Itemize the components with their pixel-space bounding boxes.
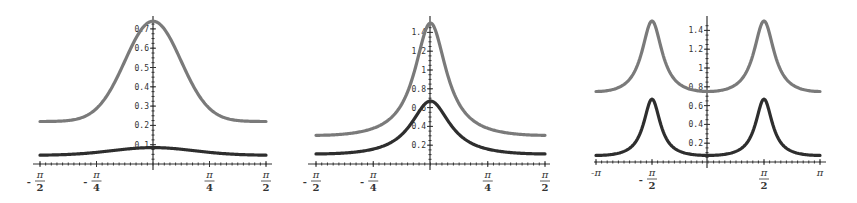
svg-text:-: -	[360, 176, 364, 187]
x-tick-fraction-label: π4-	[360, 169, 378, 193]
svg-text:2: 2	[313, 182, 320, 193]
svg-text:2: 2	[649, 180, 656, 191]
svg-text:-: -	[83, 176, 87, 187]
y-tick-label: 1.4	[689, 26, 704, 35]
svg-text:π: π	[262, 169, 270, 180]
svg-text:4: 4	[484, 182, 491, 193]
svg-text:π: π	[36, 169, 44, 180]
x-tick-fraction-label: π2	[540, 169, 550, 193]
svg-text:π: π	[92, 169, 100, 180]
svg-text:-: -	[303, 176, 307, 187]
svg-text:2: 2	[37, 182, 44, 193]
x-tick-fraction-label: π2-	[303, 169, 321, 193]
y-tick-label: 0.8	[412, 85, 427, 94]
x-tick-fraction-label: π2	[759, 167, 769, 191]
svg-text:π: π	[369, 169, 377, 180]
svg-text:π: π	[541, 169, 549, 180]
svg-text:-: -	[639, 174, 643, 185]
y-tick-label: 1.2	[689, 45, 704, 54]
x-tick-fraction-label: π2-	[27, 169, 45, 193]
y-tick-label: 0.6	[135, 44, 150, 53]
svg-text:-: -	[27, 176, 31, 187]
svg-text:π: π	[205, 169, 213, 180]
x-tick-label: -π	[591, 167, 601, 178]
y-tick-label: 1	[421, 66, 426, 75]
svg-text:π: π	[483, 169, 491, 180]
x-tick-fraction-label: π4	[205, 169, 215, 193]
x-tick-fraction-label: π2-	[639, 167, 657, 191]
x-tick-label: π	[816, 167, 824, 178]
chart-canvas: 0.10.20.30.40.50.60.7π2-π4-π4π2 0.20.40.…	[0, 0, 857, 203]
y-tick-label: 0.3	[135, 102, 150, 111]
y-tick-label: 0.5	[135, 64, 150, 73]
chart-2: 0.20.40.60.811.21.4π2-π4-π4π2	[303, 16, 550, 193]
svg-text:π: π	[648, 167, 656, 178]
svg-text:2: 2	[263, 182, 270, 193]
y-tick-label: 0.2	[412, 141, 427, 150]
x-tick-fraction-label: π4	[483, 169, 493, 193]
svg-text:2: 2	[542, 182, 549, 193]
x-tick-fraction-label: π4-	[83, 169, 101, 193]
x-tick-fraction-label: π2	[261, 169, 271, 193]
svg-text:2: 2	[761, 180, 768, 191]
svg-text:π: π	[312, 169, 320, 180]
series-light-line	[596, 21, 820, 92]
svg-text:4: 4	[206, 182, 213, 193]
chart-1: 0.10.20.30.40.50.60.7π2-π4-π4π2	[27, 16, 272, 193]
y-tick-label: 0.4	[689, 120, 704, 129]
y-tick-label: 0.6	[689, 102, 704, 111]
series-dark-line	[596, 99, 820, 155]
svg-text:4: 4	[93, 182, 100, 193]
y-tick-label: 1	[698, 64, 703, 73]
y-tick-label: 0.4	[135, 83, 150, 92]
y-tick-label: 0.2	[135, 121, 150, 130]
chart-3: 0.20.40.60.811.21.4-ππ2-π2π	[591, 16, 826, 191]
y-tick-label: 0.4	[412, 122, 427, 131]
svg-text:4: 4	[370, 182, 377, 193]
y-tick-label: 0.2	[689, 139, 704, 148]
svg-text:π: π	[760, 167, 768, 178]
